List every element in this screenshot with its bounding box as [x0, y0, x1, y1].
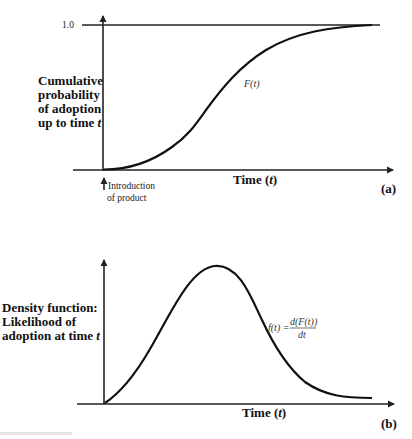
panel-a-cumulative-chart: 1.0 F(t) Cumulative probability of adopt…	[38, 16, 396, 203]
intro-annotation-line-1: Introduction	[108, 181, 155, 191]
y-label-a-line-1: Cumulative	[38, 73, 103, 88]
curve-label-F: F(t)	[243, 78, 260, 90]
page-corner-rule	[0, 432, 72, 435]
panel-label-a: (a)	[381, 181, 396, 196]
density-formula: f(t) = d(F(t)) dt	[268, 316, 318, 340]
x-label-b: Time (t)	[242, 405, 286, 420]
formula-lhs: f(t) =	[268, 322, 289, 334]
y-tick-1-0: 1.0	[62, 20, 74, 30]
formula-numerator: d(F(t))	[290, 316, 318, 328]
panel-label-b: (b)	[381, 416, 397, 431]
cumulative-curve-F	[104, 25, 372, 170]
x-label-a: Time (t)	[233, 172, 277, 187]
y-label-a-line-3: of adoption	[38, 101, 102, 116]
y-label-b-line-2: Likelihood of	[2, 314, 77, 329]
y-label-b-line-3: adoption at time t	[2, 328, 100, 343]
intro-annotation-line-2: of product	[107, 193, 147, 203]
density-curve-f	[105, 266, 372, 403]
y-label-b-line-1: Density function:	[2, 300, 98, 315]
y-label-a-line-2: probability	[38, 87, 100, 102]
panel-b-density-chart: f(t) = d(F(t)) dt Density function: Like…	[2, 260, 397, 431]
y-label-a-line-4: up to time t	[38, 115, 102, 130]
figure-canvas: 1.0 F(t) Cumulative probability of adopt…	[0, 0, 412, 439]
formula-denominator: dt	[298, 329, 306, 340]
